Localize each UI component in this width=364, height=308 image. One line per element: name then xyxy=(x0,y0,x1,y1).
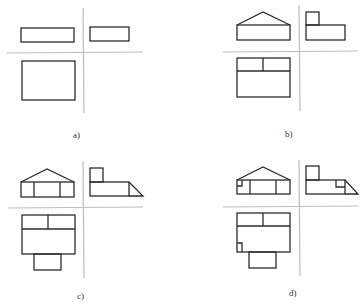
top-view xyxy=(237,58,290,97)
vertical-axis-line xyxy=(299,5,300,111)
vertical-axis-line xyxy=(83,8,84,113)
panel-label-d: d) xyxy=(289,288,297,298)
vertical-axis-line xyxy=(83,161,84,278)
panel-b: b) xyxy=(223,5,358,139)
horizontal-axis-line xyxy=(8,207,143,208)
front-view xyxy=(21,28,74,42)
horizontal-axis-line xyxy=(223,51,358,52)
front-view xyxy=(237,12,290,40)
panel-a: a) xyxy=(7,8,143,140)
panel-label-b: b) xyxy=(285,129,293,139)
horizontal-axis-line xyxy=(7,52,143,53)
notch-detail xyxy=(237,180,242,186)
top-view xyxy=(237,213,290,268)
front-view xyxy=(237,167,290,194)
panel-label-c: c) xyxy=(77,291,84,301)
side-view xyxy=(90,168,143,196)
panel-label-a: a) xyxy=(73,130,80,140)
front-view xyxy=(21,169,74,197)
horizontal-axis-line xyxy=(223,206,358,207)
panel-c: c) xyxy=(8,161,143,301)
notch-detail xyxy=(237,243,242,252)
side-view xyxy=(306,166,358,194)
diagram-canvas: a) b) xyxy=(0,0,364,308)
top-view xyxy=(22,215,75,270)
side-view xyxy=(306,12,345,40)
top-view xyxy=(22,61,75,100)
side-view xyxy=(90,27,129,41)
panel-d: d) xyxy=(223,160,358,298)
notch-detail xyxy=(336,180,345,187)
vertical-axis-line xyxy=(299,160,300,276)
